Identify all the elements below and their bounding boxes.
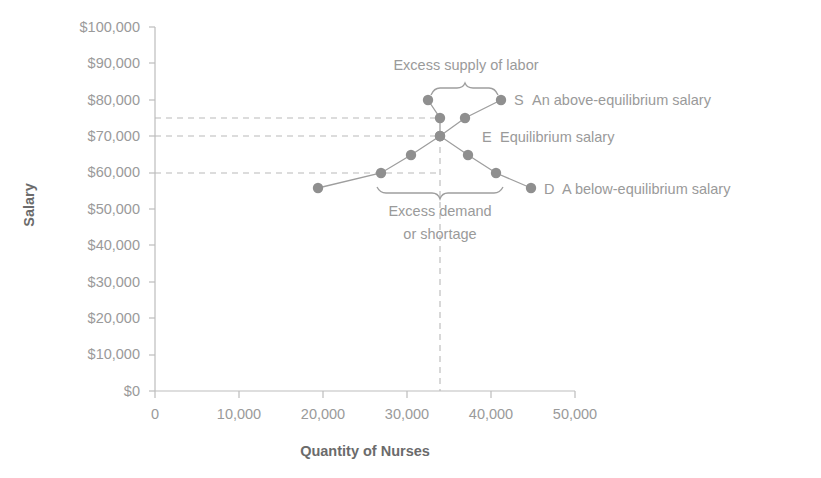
y-tick-label: $30,000 [88,274,140,290]
point-letter-e: E [482,129,492,145]
point-label-s: S An above-equilibrium salary [514,92,712,108]
demand-point [423,95,433,105]
y-axis-tick-labels: $100,000 $90,000 $80,000 $70,000 $60,000… [80,19,140,399]
supply-line [318,100,501,188]
y-tick-label: $70,000 [88,128,140,144]
y-tick-label: $20,000 [88,310,140,326]
demand-point [463,150,473,160]
y-tick-label: $50,000 [88,201,140,217]
x-tick-label: 50,000 [553,406,597,422]
annotation-excess-supply: Excess supply of labor [393,57,538,73]
x-tick-label: 40,000 [469,406,513,422]
reference-lines [155,118,440,391]
excess-supply-brace [431,83,498,95]
point-label-e: E Equilibrium salary [482,129,615,145]
demand-point [491,168,501,178]
y-axis-title: Salary [21,183,37,227]
y-tick-label: $80,000 [88,92,140,108]
supply-point [313,183,323,193]
supply-point [496,95,506,105]
point-text-d: A below-equilibrium salary [562,181,731,197]
point-text-e: Equilibrium salary [500,129,615,145]
y-tick-label: $60,000 [88,164,140,180]
demand-point [526,183,536,193]
point-letter-d: D [544,181,554,197]
x-tick-label: 10,000 [217,406,261,422]
supply-point [406,150,416,160]
supply-demand-chart: $100,000 $90,000 $80,000 $70,000 $60,000… [0,0,821,478]
supply-point [460,113,470,123]
x-tick-label: 0 [151,406,159,422]
x-axis-title: Quantity of Nurses [300,443,430,459]
y-axis [149,27,155,391]
y-tick-label: $100,000 [80,19,140,35]
point-label-d: D A below-equilibrium salary [544,181,731,197]
point-text-s: An above-equilibrium salary [532,92,712,108]
annotation-excess-demand-line1: Excess demand [388,203,491,219]
demand-point [435,131,445,141]
x-tick-label: 20,000 [301,406,345,422]
point-letter-s: S [514,92,524,108]
demand-point [435,113,445,123]
supply-series [313,95,506,193]
annotation-excess-demand-line2: or shortage [403,226,476,242]
x-axis [155,391,575,398]
x-tick-label: 30,000 [385,406,429,422]
supply-point [376,168,386,178]
y-tick-label: $40,000 [88,237,140,253]
y-tick-label: $0 [124,383,140,399]
y-tick-label: $90,000 [88,55,140,71]
y-tick-label: $10,000 [88,346,140,362]
x-axis-tick-labels: 0 10,000 20,000 30,000 40,000 50,000 [151,406,597,422]
